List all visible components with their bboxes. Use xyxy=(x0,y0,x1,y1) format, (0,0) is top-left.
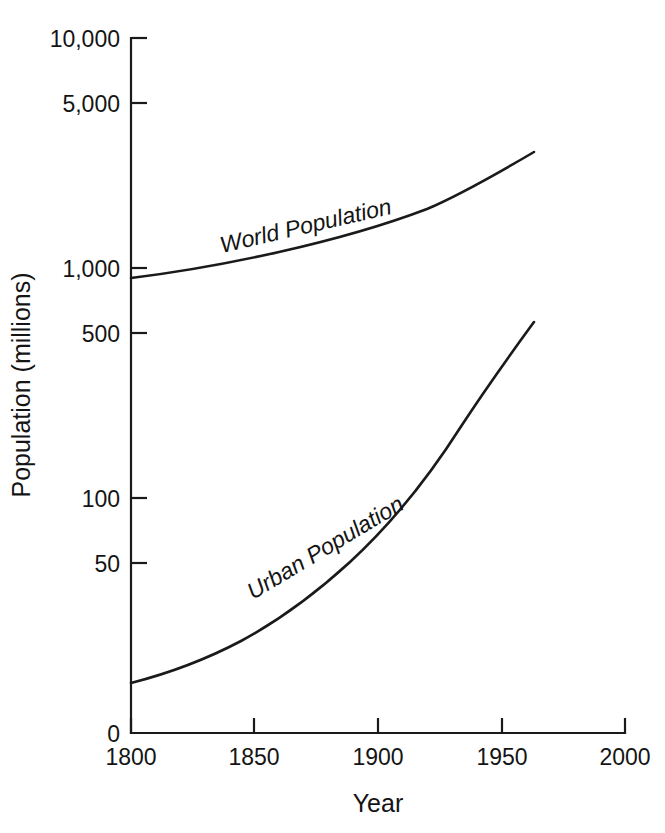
series-label-urban-population: Urban Population xyxy=(242,490,408,604)
x-tick-label-2000: 2000 xyxy=(599,744,650,770)
y-tick-label-1000: 1,000 xyxy=(62,256,120,282)
x-tick-label-1900: 1900 xyxy=(352,744,403,770)
y-axis-title: Population (millions) xyxy=(7,272,35,497)
y-tick-label-10000: 10,000 xyxy=(50,26,120,52)
x-axis-title: Year xyxy=(353,789,404,817)
series-label-world-population: World Population xyxy=(217,193,394,258)
y-tick-label-5000: 5,000 xyxy=(62,91,120,117)
x-tick-label-1850: 1850 xyxy=(228,744,279,770)
x-tick-label-1950: 1950 xyxy=(476,744,527,770)
series-curve-urban-population xyxy=(131,322,534,683)
y-tick-label-100: 100 xyxy=(82,486,120,512)
y-tick-label-50: 50 xyxy=(94,551,120,577)
population-line-chart: 10,000 5,000 1,000 500 100 50 0 1800 185… xyxy=(0,0,665,833)
chart-figure: 10,000 5,000 1,000 500 100 50 0 1800 185… xyxy=(0,0,665,833)
y-tick-label-500: 500 xyxy=(82,321,120,347)
x-tick-label-1800: 1800 xyxy=(105,744,156,770)
